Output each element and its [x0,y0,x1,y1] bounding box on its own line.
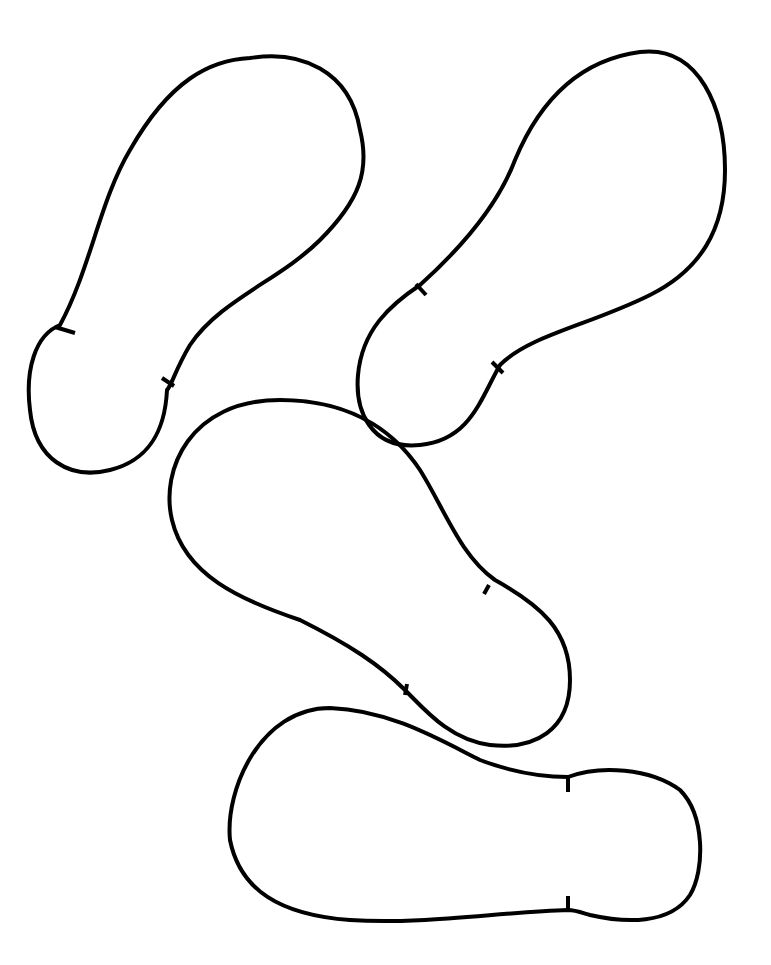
sole-3-notch-toe [484,585,489,594]
sole-2-outline-path [358,51,725,445]
line-art-canvas [0,0,771,965]
sole-3-outline-path [169,400,570,746]
sole-outline-2 [358,51,725,445]
shoe-soles-drawing [0,0,771,965]
sole-1-notch-toe [55,327,75,333]
sole-1-outline-path [29,56,364,472]
sole-3-notch-heel [405,684,407,695]
sole-outline-3 [169,400,570,746]
sole-outline-1 [29,56,364,472]
